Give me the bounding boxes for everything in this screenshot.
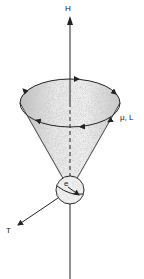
precession-diagram: e H μ, L T: [0, 0, 144, 279]
field-label: H: [65, 4, 71, 13]
torque-label: T: [6, 226, 11, 235]
arrow-up-icon: [67, 16, 73, 25]
electron-sphere: e: [56, 176, 84, 204]
torque-vector: [18, 198, 58, 225]
electron-label: e: [64, 179, 69, 188]
moment-label: μ, L: [120, 113, 134, 122]
